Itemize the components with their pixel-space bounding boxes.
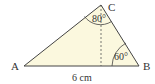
angle-label-b: 60° [114, 51, 128, 62]
triangle-diagram: A B C 80° 60° 6 cm [0, 0, 155, 84]
vertex-label-b: B [143, 60, 150, 72]
angle-label-c: 80° [92, 13, 106, 24]
vertex-label-a: A [11, 60, 19, 72]
vertex-label-c: C [108, 1, 115, 13]
side-ab-length-label: 6 cm [72, 72, 92, 83]
